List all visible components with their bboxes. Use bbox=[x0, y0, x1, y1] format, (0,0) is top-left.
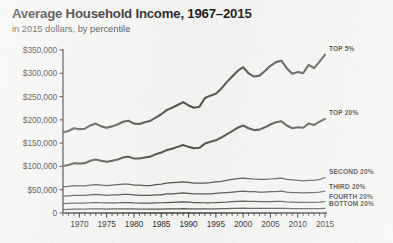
series-labels: TOP 5%TOP 20%SECOND 20%THIRD 20%FOURTH 2… bbox=[329, 45, 374, 207]
series-line-bottom-20 bbox=[63, 208, 325, 209]
y-tick-label: $200,000 bbox=[23, 115, 58, 125]
series-line-second-20 bbox=[63, 178, 325, 187]
x-tick-label: 2015 bbox=[316, 219, 335, 229]
chart-plot-area: 0$50,000$100,000$150,000$200,000$250,000… bbox=[0, 0, 393, 243]
x-tick-label: 1985 bbox=[152, 219, 171, 229]
series-line-third-20 bbox=[63, 191, 325, 196]
x-axis: 1970197519801985199019952000200520102015 bbox=[63, 213, 335, 229]
y-tick-label: $250,000 bbox=[23, 92, 58, 102]
y-tick-label: $50,000 bbox=[27, 185, 57, 195]
series-line-top-5 bbox=[63, 55, 325, 133]
series-line-fourth-20 bbox=[63, 201, 325, 204]
x-tick-label: 1990 bbox=[179, 219, 198, 229]
series-label-third-20: THIRD 20% bbox=[329, 183, 366, 190]
x-tick-label: 2010 bbox=[289, 219, 308, 229]
x-tick-label: 2000 bbox=[234, 219, 253, 229]
series-label-second-20: SECOND 20% bbox=[329, 168, 374, 175]
x-tick-label: 1975 bbox=[98, 219, 117, 229]
x-tick-label: 1970 bbox=[70, 219, 89, 229]
x-tick-label: 1995 bbox=[207, 219, 226, 229]
y-tick-label: 0 bbox=[52, 208, 57, 218]
series-label-top-20: TOP 20% bbox=[329, 109, 358, 116]
x-tick-label: 2005 bbox=[261, 219, 280, 229]
y-tick-label: $350,000 bbox=[23, 45, 58, 55]
income-line-chart: 0$50,000$100,000$150,000$200,000$250,000… bbox=[0, 0, 393, 243]
series-label-top-5: TOP 5% bbox=[329, 45, 355, 52]
y-tick-label: $150,000 bbox=[23, 138, 58, 148]
x-tick-label: 1980 bbox=[125, 219, 144, 229]
y-tick-label: $100,000 bbox=[23, 161, 58, 171]
series-label-bottom-20: BOTTOM 20% bbox=[329, 200, 374, 207]
y-tick-label: $300,000 bbox=[23, 68, 58, 78]
series-lines bbox=[63, 55, 325, 210]
y-axis: 0$50,000$100,000$150,000$200,000$250,000… bbox=[23, 45, 63, 218]
